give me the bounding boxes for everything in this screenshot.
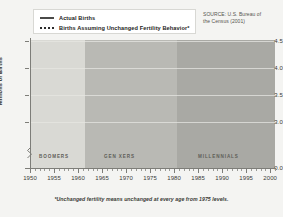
- x-tick-label-1975: 1975: [143, 175, 157, 181]
- x-tick-label-1995: 1995: [239, 175, 253, 181]
- x-tick-minor-1959: [73, 169, 74, 171]
- x-tick-minor-1991: [227, 169, 228, 171]
- y-tick-mark-3-5: [25, 95, 29, 96]
- gridline-3-0: [30, 122, 275, 123]
- x-tick-minor-2001: [275, 169, 276, 171]
- x-tick-minor-1978: [165, 169, 166, 171]
- band-label-millennials: MILLENNIALS: [198, 154, 239, 159]
- x-tick-minor-1956: [59, 169, 60, 171]
- band-label-gen-xers: GEN XERS: [104, 154, 135, 159]
- x-tick-minor-1969: [121, 169, 122, 171]
- x-tick-minor-1953: [44, 169, 45, 171]
- y-tick-label-4-0: 4.0: [261, 65, 283, 71]
- x-tick-minor-1982: [184, 169, 185, 171]
- band-label-boomers: BOOMERS: [39, 154, 69, 159]
- band-millennials: [177, 40, 275, 168]
- x-tick-minor-1979: [169, 169, 170, 171]
- dotted-line-swatch-icon: [39, 24, 55, 32]
- x-tick-minor-1999: [265, 169, 266, 171]
- x-tick-label-1950: 1950: [23, 175, 37, 181]
- x-tick-major-1990: [222, 169, 223, 173]
- x-tick-minor-1964: [97, 169, 98, 171]
- x-tick-minor-1992: [232, 169, 233, 171]
- legend-item-unchanged-fertility: Births Assuming Unchanged Fertility Beha…: [39, 23, 191, 33]
- x-tick-minor-1997: [256, 169, 257, 171]
- source-line-1: SOURCE: U.S. Bureau of: [203, 11, 275, 18]
- x-tick-minor-1996: [251, 169, 252, 171]
- legend-item-actual-births: Actual Births: [39, 13, 191, 23]
- x-tick-minor-1994: [241, 169, 242, 171]
- gridline-4-5: [30, 41, 275, 42]
- x-tick-major-1960: [78, 169, 79, 173]
- x-tick-minor-1987: [208, 169, 209, 171]
- chart-legend: Actual Births Births Assuming Unchanged …: [33, 9, 196, 34]
- x-tick-minor-1983: [189, 169, 190, 171]
- x-tick-label-1970: 1970: [119, 175, 133, 181]
- x-tick-minor-1966: [107, 169, 108, 171]
- solid-line-swatch-icon: [39, 14, 55, 22]
- x-tick-minor-1986: [203, 169, 204, 171]
- plot-area: BOOMERS GEN XERS MILLENNIALS: [30, 40, 275, 168]
- x-tick-minor-1961: [83, 169, 84, 171]
- x-tick-minor-1951: [35, 169, 36, 171]
- x-tick-major-1950: [30, 169, 31, 173]
- x-tick-minor-1977: [160, 169, 161, 171]
- y-tick-mark-4-5: [25, 41, 29, 42]
- x-tick-major-2000: [270, 169, 271, 173]
- legend-label-unchanged-fertility: Births Assuming Unchanged Fertility Beha…: [59, 24, 189, 33]
- legend-label-actual-births: Actual Births: [59, 14, 95, 23]
- y-tick-mark-4-0: [25, 68, 29, 69]
- gridline-3-5: [30, 95, 275, 96]
- x-tick-major-1985: [198, 169, 199, 173]
- x-tick-minor-1957: [64, 169, 65, 171]
- x-tick-major-1980: [174, 169, 175, 173]
- x-tick-major-1970: [126, 169, 127, 173]
- x-axis-line: [29, 168, 276, 169]
- band-boomers: [30, 40, 85, 168]
- chart-figure: Actual Births Births Assuming Unchanged …: [0, 0, 283, 217]
- x-tick-major-1995: [246, 169, 247, 173]
- x-tick-label-2000: 2000: [263, 175, 277, 181]
- x-tick-minor-1971: [131, 169, 132, 171]
- x-tick-label-1990: 1990: [215, 175, 229, 181]
- y-tick-label-3-0: 3.0: [261, 119, 283, 125]
- x-tick-minor-1967: [112, 169, 113, 171]
- y-axis-title: Millions of Births: [0, 57, 3, 105]
- x-tick-minor-1993: [237, 169, 238, 171]
- x-tick-minor-1981: [179, 169, 180, 171]
- x-tick-major-1955: [54, 169, 55, 173]
- x-tick-minor-1973: [141, 169, 142, 171]
- x-tick-label-1980: 1980: [167, 175, 181, 181]
- source-note: SOURCE: U.S. Bureau of the Census (2001): [203, 11, 275, 25]
- axis-break-icon: [25, 147, 34, 159]
- footnote: *Unchanged fertility means unchanged at …: [0, 196, 283, 202]
- x-tick-minor-1988: [213, 169, 214, 171]
- x-tick-label-1985: 1985: [191, 175, 205, 181]
- y-tick-label-4-5: 4.5: [261, 38, 283, 44]
- band-gen-xers: [85, 40, 177, 168]
- x-tick-label-1965: 1965: [95, 175, 109, 181]
- x-tick-major-1975: [150, 169, 151, 173]
- x-tick-minor-1962: [88, 169, 89, 171]
- x-tick-minor-1998: [261, 169, 262, 171]
- source-line-2: the Census (2001): [203, 18, 275, 25]
- x-tick-minor-1976: [155, 169, 156, 171]
- x-tick-minor-1958: [68, 169, 69, 171]
- x-tick-major-1965: [102, 169, 103, 173]
- x-tick-minor-1954: [49, 169, 50, 171]
- y-tick-mark-3-0: [25, 122, 29, 123]
- x-tick-minor-1989: [217, 169, 218, 171]
- x-tick-minor-1974: [145, 169, 146, 171]
- x-tick-label-1960: 1960: [71, 175, 85, 181]
- x-tick-minor-1984: [193, 169, 194, 171]
- x-tick-minor-1968: [117, 169, 118, 171]
- x-tick-label-1955: 1955: [47, 175, 61, 181]
- gridline-4-0: [30, 68, 275, 69]
- x-tick-minor-1972: [136, 169, 137, 171]
- x-tick-minor-1952: [40, 169, 41, 171]
- x-tick-minor-1963: [93, 169, 94, 171]
- y-tick-label-3-5: 3.5: [261, 92, 283, 98]
